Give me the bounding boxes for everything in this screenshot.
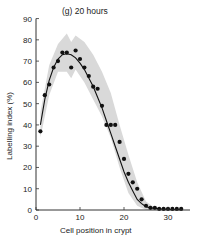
data-point (60, 51, 64, 55)
x-tick-label: 10 (76, 213, 85, 222)
data-point (140, 197, 144, 201)
plot-area (38, 33, 183, 211)
labelling-index-chart: (g) 20 hours 0102030405060708090 0102030… (0, 0, 198, 239)
data-point (148, 206, 152, 210)
data-point (87, 74, 91, 78)
y-tick-label: 10 (23, 185, 32, 194)
y-tick-label: 70 (23, 57, 32, 66)
data-point (78, 57, 82, 61)
chart-title: (g) 20 hours (62, 6, 108, 16)
data-point (43, 93, 47, 97)
y-axis: 0102030405060708090 (23, 15, 39, 215)
y-tick-label: 40 (23, 121, 32, 130)
data-point (100, 104, 104, 108)
data-point (126, 172, 130, 176)
data-point (104, 123, 108, 127)
x-tick-label: 20 (120, 213, 129, 222)
data-point (38, 129, 42, 133)
data-point (113, 123, 117, 127)
data-point (131, 180, 135, 184)
data-point (74, 48, 78, 52)
data-point (144, 204, 148, 208)
data-point (91, 85, 95, 89)
y-tick-label: 50 (23, 100, 32, 109)
y-tick-label: 0 (28, 206, 33, 215)
y-tick-label: 80 (23, 36, 32, 45)
y-tick-label: 20 (23, 163, 32, 172)
data-point (153, 206, 157, 210)
data-point (135, 187, 139, 191)
y-tick-label: 30 (23, 142, 32, 151)
data-point (118, 140, 122, 144)
y-axis-label: Labelling index (%) (5, 92, 14, 160)
data-point (122, 157, 126, 161)
data-point (47, 82, 51, 86)
data-point (65, 51, 69, 55)
x-tick-label: 0 (34, 213, 39, 222)
data-point (96, 87, 100, 91)
data-point (52, 65, 56, 69)
data-point (82, 65, 86, 69)
data-point (109, 123, 113, 127)
data-point (69, 65, 73, 69)
y-tick-label: 60 (23, 78, 32, 87)
data-point (56, 59, 60, 63)
y-tick-label: 90 (23, 15, 32, 24)
x-axis-label: Cell position in crypt (60, 226, 132, 235)
x-tick-label: 30 (164, 213, 173, 222)
